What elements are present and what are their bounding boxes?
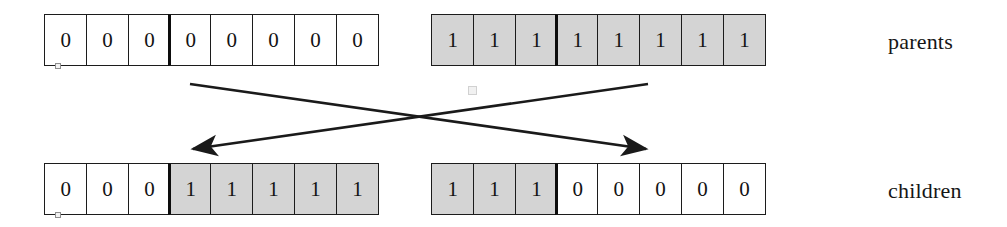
gene-cell: 1: [555, 14, 598, 66]
gene-cell: 0: [597, 163, 640, 215]
gene-cell: 1: [431, 14, 474, 66]
gene-cell: 0: [723, 163, 766, 215]
gene-cell: 1: [473, 163, 516, 215]
stray-marker-icon: [468, 86, 477, 95]
selection-handle-parent-1: [55, 63, 61, 69]
gene-cell: 1: [473, 14, 516, 66]
chromosome-parent-2: 11111111: [431, 14, 766, 66]
gene-cell: 1: [210, 163, 253, 215]
gene-cell: 0: [44, 14, 87, 66]
gene-cell: 1: [681, 14, 724, 66]
arrow-right-parent-to-left-child: [193, 84, 648, 149]
gene-cell: 1: [515, 14, 558, 66]
gene-cell: 1: [597, 14, 640, 66]
arrow-left-parent-to-right-child: [190, 84, 646, 149]
gene-cell: 0: [210, 14, 253, 66]
gene-cell: 0: [86, 14, 129, 66]
gene-cell: 0: [86, 163, 129, 215]
gene-cell: 1: [515, 163, 558, 215]
gene-cell: 0: [128, 14, 171, 66]
chromosome-child-1: 00011111: [44, 163, 379, 215]
chromosome-child-2: 11100000: [431, 163, 766, 215]
gene-cell: 1: [431, 163, 474, 215]
gene-cell: 0: [168, 14, 211, 66]
gene-cell: 1: [168, 163, 211, 215]
selection-handle-child-1: [55, 212, 61, 218]
label-parents: parents: [888, 29, 953, 55]
gene-cell: 0: [555, 163, 598, 215]
gene-cell: 0: [681, 163, 724, 215]
crossover-diagram: 00000000111111110001111111100000 parents…: [0, 0, 1007, 227]
gene-cell: 1: [294, 163, 337, 215]
gene-cell: 1: [252, 163, 295, 215]
gene-cell: 0: [44, 163, 87, 215]
gene-cell: 1: [336, 163, 379, 215]
gene-cell: 1: [723, 14, 766, 66]
gene-cell: 0: [294, 14, 337, 66]
gene-cell: 0: [336, 14, 379, 66]
label-children: children: [888, 178, 962, 204]
gene-cell: 0: [252, 14, 295, 66]
chromosome-parent-1: 00000000: [44, 14, 379, 66]
gene-cell: 0: [639, 163, 682, 215]
gene-cell: 1: [639, 14, 682, 66]
gene-cell: 0: [128, 163, 171, 215]
